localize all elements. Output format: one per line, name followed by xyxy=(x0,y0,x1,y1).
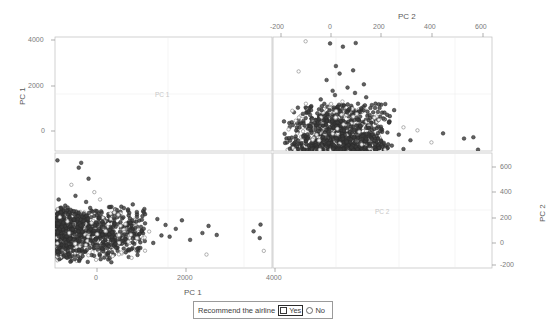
data-point xyxy=(108,205,112,209)
data-point xyxy=(111,254,114,257)
data-point xyxy=(368,113,372,117)
data-point xyxy=(88,206,92,210)
data-point xyxy=(310,131,314,135)
data-point xyxy=(297,70,300,73)
data-point xyxy=(314,127,318,131)
data-point xyxy=(392,108,396,112)
data-point xyxy=(334,116,337,119)
data-point xyxy=(57,235,61,239)
data-point xyxy=(383,111,387,115)
data-point xyxy=(339,119,343,123)
data-point xyxy=(124,250,128,254)
data-point xyxy=(416,129,419,132)
data-point xyxy=(373,139,377,143)
data-point xyxy=(321,124,325,128)
data-point xyxy=(331,89,335,93)
data-point xyxy=(80,240,84,244)
data-point xyxy=(124,222,127,225)
data-point xyxy=(354,41,358,45)
data-point xyxy=(324,128,328,132)
data-point xyxy=(341,100,344,103)
data-point xyxy=(127,240,130,243)
data-point xyxy=(109,260,113,264)
data-point xyxy=(100,211,104,215)
data-point xyxy=(383,102,387,106)
data-point xyxy=(86,217,90,221)
tick-left-0: 4000 xyxy=(28,36,44,43)
data-point xyxy=(352,115,355,118)
data-point xyxy=(93,190,96,193)
data-point xyxy=(57,222,61,226)
data-point xyxy=(331,147,335,151)
legend-item-no[interactable]: No xyxy=(306,306,325,315)
data-point xyxy=(328,42,332,46)
data-point xyxy=(361,134,365,138)
data-point xyxy=(86,239,89,242)
data-point xyxy=(174,227,178,231)
data-point xyxy=(370,121,374,125)
tick-top-2: 200 xyxy=(373,23,385,30)
data-point xyxy=(319,98,323,102)
data-point xyxy=(373,142,377,146)
data-point xyxy=(201,231,205,235)
data-point xyxy=(74,242,77,245)
data-point xyxy=(318,148,321,151)
data-point xyxy=(377,118,380,121)
data-point xyxy=(66,249,70,253)
data-point xyxy=(56,207,59,210)
data-point xyxy=(114,242,118,246)
axis-title-left: PC 1 xyxy=(18,87,27,105)
data-point xyxy=(168,235,172,239)
axis-title-top: PC 2 xyxy=(398,12,416,21)
data-point xyxy=(359,106,363,110)
data-point xyxy=(262,249,265,252)
data-point xyxy=(141,214,145,218)
data-point xyxy=(142,227,146,231)
data-point xyxy=(333,93,337,97)
data-point xyxy=(76,230,80,234)
data-point xyxy=(351,68,355,72)
data-point xyxy=(291,123,295,127)
data-point xyxy=(77,166,81,170)
data-point xyxy=(311,138,314,141)
data-point xyxy=(147,230,150,233)
data-point xyxy=(304,40,307,43)
data-point xyxy=(109,212,112,215)
data-point xyxy=(341,143,345,147)
data-point xyxy=(101,216,104,219)
data-point xyxy=(377,146,381,150)
data-point xyxy=(376,110,380,114)
data-point xyxy=(80,230,84,234)
data-point xyxy=(71,227,75,231)
data-point xyxy=(376,137,380,141)
tick-top-3: 400 xyxy=(424,23,436,30)
data-point xyxy=(341,137,345,141)
data-point xyxy=(143,239,147,243)
tick-right-0: 600 xyxy=(500,163,512,170)
data-point xyxy=(472,135,476,139)
legend-marker-circle-icon xyxy=(306,307,313,314)
data-point xyxy=(82,219,86,223)
tick-top-0: -200 xyxy=(270,23,284,30)
data-point xyxy=(322,102,326,106)
data-point xyxy=(342,123,345,126)
data-point xyxy=(363,104,367,108)
data-point xyxy=(86,235,89,238)
data-point xyxy=(329,102,332,105)
data-point xyxy=(376,125,380,129)
data-point xyxy=(121,215,125,219)
data-point xyxy=(143,207,147,211)
data-point xyxy=(87,230,91,234)
legend[interactable]: Recommend the airline Yes No xyxy=(193,301,333,319)
data-point xyxy=(131,203,135,207)
data-point xyxy=(72,218,76,222)
legend-item-yes[interactable]: Yes xyxy=(279,306,302,315)
data-point xyxy=(336,127,339,130)
data-point xyxy=(366,110,370,114)
data-point xyxy=(294,119,297,122)
data-point xyxy=(117,233,120,236)
data-point xyxy=(160,234,164,238)
data-point xyxy=(368,144,372,148)
data-point xyxy=(313,121,317,125)
data-point xyxy=(370,103,374,107)
